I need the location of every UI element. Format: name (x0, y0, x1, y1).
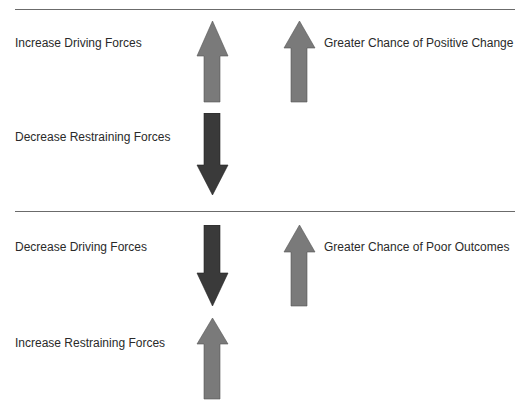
down-arrow-icon (196, 113, 229, 196)
top-divider (15, 9, 515, 10)
decrease-restraining-forces-label: Decrease Restraining Forces (15, 130, 170, 144)
up-arrow-icon (283, 224, 316, 307)
down-arrow-icon (196, 225, 229, 308)
increase-restraining-forces-label: Increase Restraining Forces (15, 336, 165, 350)
up-arrow-icon (196, 317, 229, 400)
increase-driving-forces-label: Increase Driving Forces (15, 36, 142, 50)
positive-change-label: Greater Chance of Positive Change (324, 36, 513, 50)
middle-divider (15, 211, 515, 212)
decrease-driving-forces-label: Decrease Driving Forces (15, 240, 147, 254)
up-arrow-icon (283, 20, 316, 103)
up-arrow-icon (196, 20, 229, 103)
poor-outcomes-label: Greater Chance of Poor Outcomes (324, 240, 509, 254)
